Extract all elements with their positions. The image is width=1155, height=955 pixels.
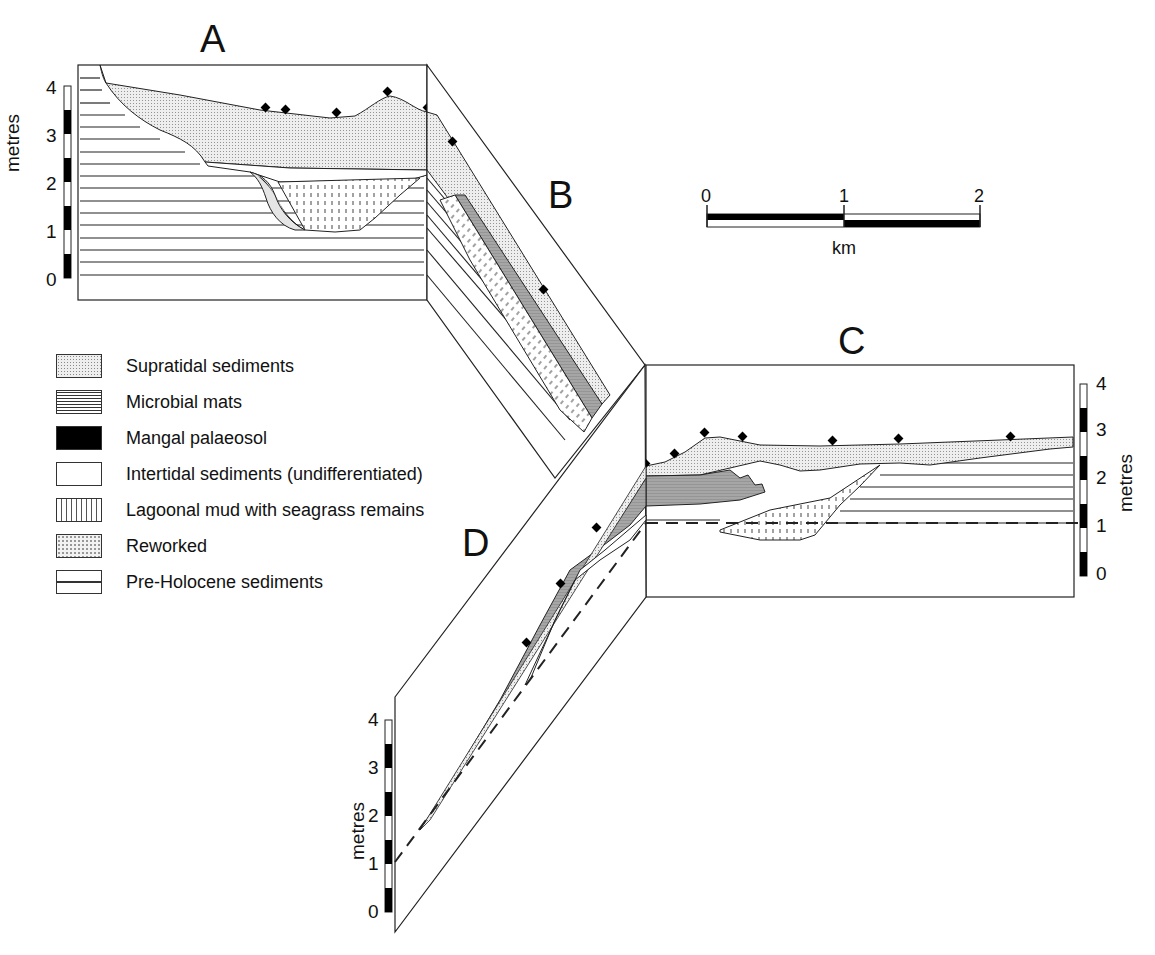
reworked-swatch-icon [56, 534, 102, 558]
legend-item-reworked: Reworked [56, 528, 424, 564]
microbial-swatch-icon [56, 390, 102, 414]
legend-label: Supratidal sediments [126, 356, 294, 377]
mangal-swatch-icon [56, 426, 102, 450]
section-d-panel [395, 365, 646, 932]
scale-a-tick-1: 1 [46, 222, 57, 241]
scale-c-tick-2: 2 [1096, 468, 1107, 487]
scale-c-tick-4: 4 [1096, 374, 1107, 393]
section-a-panel [78, 65, 432, 300]
scale-d-tick-1: 1 [368, 854, 379, 873]
legend-label: Pre-Holocene sediments [126, 572, 323, 593]
supratidal-swatch-icon [56, 354, 102, 378]
scale-d-tick-3: 3 [368, 758, 379, 777]
legend-label: Lagoonal mud with seagrass remains [126, 500, 424, 521]
vertical-scale-c [1080, 384, 1087, 576]
legend-label: Mangal palaeosol [126, 428, 267, 449]
km-tick-1: 1 [839, 186, 849, 207]
intertidal-swatch-icon [56, 462, 102, 486]
scale-a-tick-4: 4 [46, 78, 57, 97]
scale-d-tick-2: 2 [368, 806, 379, 825]
scale-a-title: metres [3, 114, 22, 172]
legend-item-lagoonal: Lagoonal mud with seagrass remains [56, 492, 424, 528]
section-label-a: A [200, 20, 225, 58]
stratigraphic-fence-diagram: A B C D 0 1 2 3 4 metres 0 1 2 3 4 metre… [0, 0, 1155, 955]
legend: Supratidal sediments Microbial mats Mang… [56, 348, 424, 600]
legend-label: Reworked [126, 536, 207, 557]
legend-item-preholocene: Pre-Holocene sediments [56, 564, 424, 600]
scale-d-tick-4: 4 [368, 710, 379, 729]
legend-item-supratidal: Supratidal sediments [56, 348, 424, 384]
scale-c-tick-0: 0 [1096, 564, 1107, 583]
vertical-scale-a [64, 86, 71, 278]
scale-c-title: metres [1116, 454, 1135, 512]
legend-label: Intertidal sediments (undifferentiated) [126, 464, 423, 485]
preholocene-swatch-icon [56, 570, 102, 594]
legend-item-intertidal: Intertidal sediments (undifferentiated) [56, 456, 424, 492]
legend-label: Microbial mats [126, 392, 242, 413]
km-tick-2: 2 [974, 186, 984, 207]
vertical-scale-d [385, 720, 392, 912]
section-label-d: D [462, 524, 489, 562]
scale-c-tick-1: 1 [1096, 516, 1107, 535]
km-tick-0: 0 [701, 186, 711, 207]
km-scale-bar [707, 205, 980, 227]
km-unit-label: km [832, 238, 856, 259]
scale-a-tick-3: 3 [46, 126, 57, 145]
scale-d-tick-0: 0 [368, 902, 379, 921]
lagoonal-swatch-icon [56, 498, 102, 522]
section-label-c: C [838, 322, 865, 360]
scale-a-tick-0: 0 [46, 270, 57, 289]
scale-c-tick-3: 3 [1096, 420, 1107, 439]
legend-item-mangal: Mangal palaeosol [56, 420, 424, 456]
scale-a-tick-2: 2 [46, 174, 57, 193]
scale-d-title: metres [348, 802, 367, 860]
legend-item-microbial: Microbial mats [56, 384, 424, 420]
section-c-panel [641, 365, 1080, 597]
section-label-b: B [548, 176, 573, 214]
